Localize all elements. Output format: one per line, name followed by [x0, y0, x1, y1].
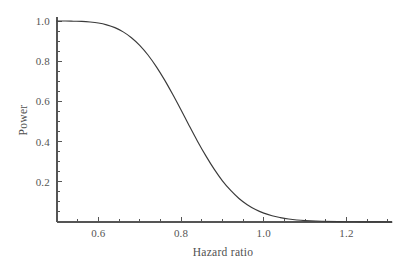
y-axis-ticks: [57, 21, 62, 212]
x-tick-label: 0.8: [174, 227, 188, 239]
y-tick-label: 0.4: [22, 136, 50, 148]
x-tick-label: 1.0: [257, 227, 271, 239]
y-axis-title: Power: [17, 105, 29, 136]
axis-lines: [57, 17, 392, 222]
power-curve-figure: 0.60.81.01.2 0.20.40.60.81.0 Hazard rati…: [0, 0, 406, 271]
y-tick-label: 0.8: [22, 55, 50, 67]
x-tick-label: 1.2: [339, 227, 353, 239]
y-tick-label: 0.2: [22, 176, 50, 188]
x-tick-label: 0.6: [91, 227, 105, 239]
power-curve-line: [57, 21, 392, 222]
y-tick-label: 1.0: [22, 15, 50, 27]
x-axis-title: Hazard ratio: [193, 246, 254, 258]
